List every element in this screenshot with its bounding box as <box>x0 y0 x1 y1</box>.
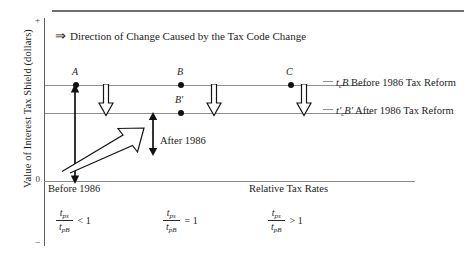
after-reform-level-text: After 1986 Tax Reform <box>355 105 454 116</box>
double-headed-arrow-icon-after-1986 <box>146 112 160 156</box>
annotation-before-1986: Before 1986 <box>48 183 100 194</box>
fraction-3: tps tpB <box>268 207 285 234</box>
annotation-after-1986: After 1986 <box>160 135 206 146</box>
x-axis-line <box>44 181 415 182</box>
fraction-1-operator: < 1 <box>73 215 91 226</box>
double-right-arrow-icon: ⇒ <box>55 28 70 43</box>
fraction-1: tps tpB <box>56 207 73 234</box>
fraction-3-denominator: tpB <box>268 220 285 234</box>
hollow-down-arrow-icon-a <box>98 84 114 118</box>
tax-rate-expression-2: tps tpB = 1 <box>163 207 198 234</box>
point-label-b-prime: B′ <box>175 94 183 105</box>
point-label-a: A <box>72 66 78 77</box>
fraction-2-operator: = 1 <box>180 215 198 226</box>
x-axis-title: Relative Tax Rates <box>249 183 328 194</box>
direction-of-change-label: Direction of Change Caused by the Tax Co… <box>70 30 306 42</box>
point-marker-b-prime <box>178 110 184 116</box>
fraction-3-operator: > 1 <box>285 215 303 226</box>
point-label-c: C <box>286 66 293 77</box>
before-reform-level-label: tcB Before 1986 Tax Reform <box>323 77 456 90</box>
point-label-b: B <box>177 66 183 77</box>
interest-tax-shield-figure: + 0 – Value of Interest Tax Shield (doll… <box>0 0 475 260</box>
before-reform-b-symbol: B <box>342 77 348 88</box>
top-horizontal-rule <box>52 10 464 12</box>
y-axis-tick-minus: – <box>26 236 40 246</box>
leader-line-before <box>323 81 333 82</box>
hollow-down-arrow-icon-b <box>206 84 222 118</box>
hollow-down-arrow-icon-c <box>296 84 312 118</box>
hollow-diagonal-up-arrow-icon <box>60 126 146 174</box>
after-reform-level-label: t′cB′ After 1986 Tax Reform <box>323 105 454 118</box>
tax-rate-expression-3: tps tpB > 1 <box>268 207 303 234</box>
after-reform-b-symbol: B′ <box>344 105 353 116</box>
fraction-1-denominator: tpB <box>56 220 73 234</box>
fraction-3-numerator: tps <box>269 207 284 220</box>
y-axis-title: Value of Interest Tax Shield (dollars) <box>22 9 33 209</box>
point-marker-c <box>288 82 294 88</box>
tax-rate-expression-1: tps tpB < 1 <box>56 207 91 234</box>
fraction-2: tps tpB <box>163 207 180 234</box>
fraction-2-numerator: tps <box>164 207 179 220</box>
fraction-2-denominator: tpB <box>163 220 180 234</box>
leader-line-after <box>323 109 333 110</box>
point-marker-b <box>178 82 184 88</box>
y-axis-line <box>44 18 45 246</box>
direction-of-change-note: ⇒Direction of Change Caused by the Tax C… <box>55 28 306 44</box>
before-reform-level-text: Before 1986 Tax Reform <box>351 77 456 88</box>
fraction-1-numerator: tps <box>57 207 72 220</box>
